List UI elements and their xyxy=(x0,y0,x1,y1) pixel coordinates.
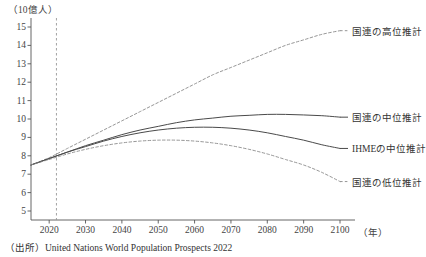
y-tick-label: 14 xyxy=(8,40,26,50)
series-line xyxy=(31,31,340,165)
series-label: IHMEの中位推計 xyxy=(352,141,426,155)
y-tick-label: 12 xyxy=(8,77,26,87)
y-tick-label: 5 xyxy=(8,206,26,216)
series-label: 国連の中位推計 xyxy=(352,110,422,124)
series-line xyxy=(31,140,340,182)
y-tick-label: 9 xyxy=(8,132,26,142)
y-tick-label: 13 xyxy=(8,59,26,69)
source-note: （出所）United Nations World Population Pros… xyxy=(5,240,232,254)
source-text: United Nations World Population Prospect… xyxy=(45,243,232,253)
x-tick-label: 2030 xyxy=(66,225,106,235)
y-tick-label: 8 xyxy=(8,151,26,161)
y-tick-label: 11 xyxy=(8,96,26,106)
x-tick-label: 2070 xyxy=(211,225,251,235)
x-tick-label: 2050 xyxy=(138,225,178,235)
series-line xyxy=(31,114,340,165)
x-tick-label: 2090 xyxy=(284,225,324,235)
x-axis-unit-label: （年） xyxy=(358,225,388,239)
x-tick-label: 2080 xyxy=(247,225,287,235)
x-tick-label: 2060 xyxy=(175,225,215,235)
x-tick-label: 2020 xyxy=(29,225,69,235)
y-tick-label: 7 xyxy=(8,169,26,179)
x-tick-label: 2100 xyxy=(320,225,360,235)
source-prefix: （出所） xyxy=(5,243,45,253)
series-label: 国連の低位推計 xyxy=(352,175,422,189)
series-lines xyxy=(31,31,348,182)
y-tick-label: 6 xyxy=(8,188,26,198)
x-tick-label: 2040 xyxy=(102,225,142,235)
y-tick-label: 15 xyxy=(8,22,26,32)
y-tick-label: 10 xyxy=(8,114,26,124)
series-label: 国連の高位推計 xyxy=(352,24,422,38)
series-line xyxy=(31,127,340,165)
